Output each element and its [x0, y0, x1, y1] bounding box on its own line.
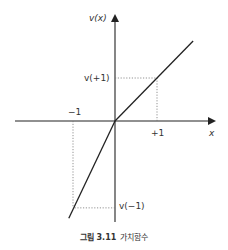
figure-title: 가치함수 [120, 233, 148, 242]
figure-caption: 그림 3.11가치함수 [0, 231, 228, 242]
v-plus-one-label: v(+1) [84, 73, 110, 83]
figure-number: 그림 3.11 [80, 233, 117, 242]
x-tick-label-minus-one: −1 [68, 107, 81, 117]
gain-segment-line [115, 41, 193, 121]
value-function-chart: v(x) x −1 +1 v(+1) v(−1) [0, 0, 228, 250]
loss-segment-line [69, 121, 115, 218]
v-minus-one-label: v(−1) [119, 201, 145, 211]
x-axis-label: x [208, 128, 215, 138]
x-tick-label-plus-one: +1 [151, 128, 164, 138]
y-axis-label: v(x) [89, 13, 107, 23]
